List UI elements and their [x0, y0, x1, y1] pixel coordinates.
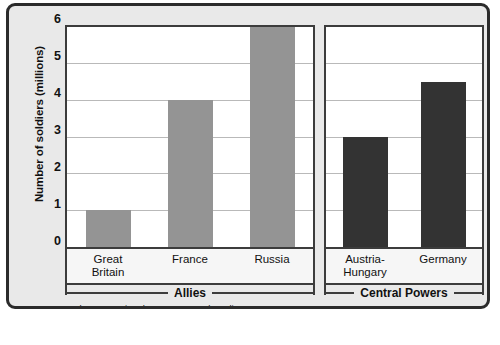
chart-title: Number of Soldiers by Country: [9, 3, 490, 6]
bracket-rule-left: [326, 292, 354, 294]
y-tick-0: 0: [43, 236, 61, 246]
y-tick-2: 2: [43, 162, 61, 172]
category-label-russia: Russia: [236, 253, 308, 266]
bracket-rule-right: [454, 292, 482, 294]
label-line-2: Britain: [92, 266, 125, 278]
y-axis-ticks: 6 5 4 3 2 1 0: [43, 19, 61, 245]
bar-france[interactable]: [168, 100, 213, 247]
bracket-rule-left: [67, 292, 168, 294]
label-line-1: Germany: [419, 253, 466, 265]
label-line-1: France: [172, 253, 208, 265]
bar-group-central-powers: [326, 27, 482, 247]
category-label-germany: Germany: [407, 253, 479, 266]
bracket-tick-right: [482, 285, 484, 295]
chart-figure: Number of Soldiers by Country Number of …: [6, 3, 490, 309]
group-label-central-powers: Central Powers: [324, 285, 484, 301]
plot-panel-central-powers: [324, 25, 484, 249]
bar-russia[interactable]: [250, 27, 295, 247]
source-label: SOURCE:: [27, 303, 70, 309]
plot-area-allies: [67, 27, 313, 247]
y-tick-5: 5: [43, 51, 61, 61]
bar-germany[interactable]: [421, 82, 466, 247]
source-note: SOURCE: The International Internet Encyc…: [27, 303, 238, 309]
label-line-2: Hungary: [343, 266, 386, 278]
group-label-allies: Allies: [65, 285, 315, 301]
y-tick-6: 6: [43, 14, 61, 24]
plot-area-central-powers: [326, 27, 482, 247]
label-line-1: Austria-: [345, 253, 385, 265]
category-labels-allies: Great Britain France Russia: [65, 249, 315, 285]
bracket-rule-right: [212, 292, 313, 294]
bar-group-allies: [67, 27, 313, 247]
group-label-text: Allies: [168, 286, 212, 300]
y-tick-4: 4: [43, 88, 61, 98]
label-line-1: Great: [94, 253, 123, 265]
y-tick-3: 3: [43, 125, 61, 135]
plot-panel-allies: [65, 25, 315, 249]
category-label-france: France: [154, 253, 226, 266]
category-label-austria-hungary: Austria- Hungary: [329, 253, 401, 279]
y-tick-1: 1: [43, 199, 61, 209]
source-title: The International Internet Encyclopedia: [73, 303, 238, 309]
bar-austria-hungary[interactable]: [343, 137, 388, 247]
group-label-text: Central Powers: [354, 286, 453, 300]
label-line-1: Russia: [254, 253, 289, 265]
category-label-great-britain: Great Britain: [72, 253, 144, 279]
bracket-tick-right: [313, 285, 315, 295]
category-labels-central-powers: Austria- Hungary Germany: [324, 249, 484, 285]
bar-great-britain[interactable]: [86, 210, 131, 247]
